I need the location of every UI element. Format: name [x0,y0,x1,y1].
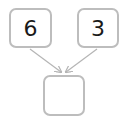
part-box-left: 6 [9,8,52,48]
part-value-right: 3 [91,16,105,41]
arrow-right-to-whole [66,49,97,72]
arrow-left-to-whole [30,49,61,72]
part-box-right: 3 [77,8,119,48]
part-value-left: 6 [24,16,38,41]
whole-answer-box[interactable] [43,75,85,116]
